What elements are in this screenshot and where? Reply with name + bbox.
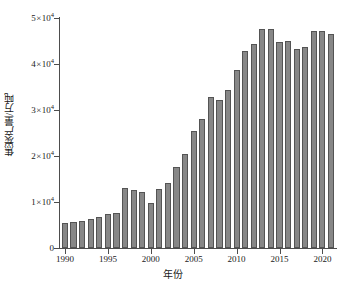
bar: [88, 219, 94, 248]
x-axis-tick-label: 2000: [142, 255, 160, 264]
bar: [148, 203, 154, 248]
x-axis-tick-mark: [322, 249, 323, 254]
bar: [139, 192, 145, 248]
y-axis-tick-label: 3×104: [31, 106, 54, 115]
y-axis-tick-label: 2×104: [31, 152, 54, 161]
y-axis-tick-label: 5×104: [31, 14, 54, 23]
bar: [311, 31, 317, 248]
x-axis-tick-mark: [151, 249, 152, 254]
x-axis-tick-label: 2015: [271, 255, 289, 264]
bar: [156, 189, 162, 248]
bar: [105, 214, 111, 248]
bar: [268, 29, 274, 248]
y-axis-tick-mark: [54, 202, 59, 203]
bar: [113, 213, 119, 248]
x-axis-tick-label: 2005: [185, 255, 203, 264]
x-axis-tick-mark: [65, 249, 66, 254]
y-axis-tick-mark: [54, 156, 59, 157]
bar: [251, 44, 257, 248]
y-axis-tick-mark: [54, 64, 59, 65]
bar: [216, 100, 222, 248]
bar: [173, 167, 179, 248]
x-axis-tick-mark: [280, 249, 281, 254]
bar: [208, 97, 214, 248]
y-axis-tick-label: 1×104: [31, 198, 54, 207]
x-axis-tick-mark: [194, 249, 195, 254]
bar: [225, 90, 231, 248]
y-axis-title: 焦炭产量/万吨: [0, 0, 20, 248]
y-axis-tick-labels: 01×1042×1043×1044×1045×104: [20, 0, 58, 260]
bar: [319, 31, 325, 248]
bars-layer: [59, 18, 337, 248]
y-axis-tick-mark: [54, 110, 59, 111]
x-axis-tick-mark: [108, 249, 109, 254]
x-axis-tick-label: 1995: [99, 255, 117, 264]
bar: [276, 42, 282, 248]
bar: [302, 47, 308, 248]
x-axis-tick-label: 2020: [313, 255, 331, 264]
x-axis-line: [59, 248, 337, 249]
bar-chart: 焦炭产量/万吨 01×1042×1043×1044×1045×104 19901…: [0, 0, 346, 290]
bar: [122, 188, 128, 248]
bar: [182, 154, 188, 248]
bar: [199, 119, 205, 248]
bar: [62, 223, 68, 248]
y-axis-tick-mark: [54, 248, 59, 249]
bar: [191, 131, 197, 248]
bar: [131, 190, 137, 248]
x-axis-tick-label: 2010: [228, 255, 246, 264]
bar: [294, 49, 300, 248]
y-axis-title-text: 焦炭产量/万吨: [5, 93, 15, 156]
x-axis-title: 年份: [0, 270, 346, 280]
y-axis-tick-mark: [54, 18, 59, 19]
x-axis-tick-label: 1990: [56, 255, 74, 264]
y-axis-tick-label: 4×104: [31, 60, 54, 69]
bar: [242, 51, 248, 248]
bar: [285, 41, 291, 248]
bar: [259, 29, 265, 248]
x-axis-tick-mark: [237, 249, 238, 254]
bar: [165, 183, 171, 248]
bar: [234, 70, 240, 248]
x-axis-title-text: 年份: [163, 269, 183, 280]
bar: [328, 34, 334, 248]
bar: [96, 217, 102, 248]
x-axis-tick-labels: 1990199520002005201020152020: [0, 255, 346, 269]
bar: [79, 221, 85, 248]
bar: [70, 222, 76, 248]
